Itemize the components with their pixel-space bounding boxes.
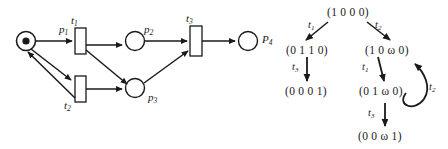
place-p1 bbox=[17, 32, 36, 51]
place-label-p4: P4 bbox=[262, 34, 272, 47]
tree-node-right2: (0 1 ω 0) bbox=[359, 86, 403, 98]
tree-arc-right1-right2 bbox=[378, 57, 384, 81]
tree-arc-label-t3-right2-right3: t3 bbox=[368, 108, 374, 120]
transition-t1 bbox=[75, 28, 86, 54]
tree-node-right3: (0 0 ω 1) bbox=[358, 131, 402, 143]
tree-arc-label-t1-right1-right2: t1 bbox=[362, 62, 368, 74]
transition-label-t3: t3 bbox=[186, 13, 193, 26]
tree-node-left2: (0 0 0 1) bbox=[285, 86, 327, 98]
transition-t2 bbox=[75, 76, 86, 102]
tree-arc-label-t1-root-left1: t1 bbox=[308, 20, 314, 32]
place-label-p1: p1 bbox=[59, 24, 68, 37]
arc-p3-t3 bbox=[144, 51, 188, 83]
tree-node-root: (1 0 0 0) bbox=[327, 7, 369, 19]
tree-arc-label-t2-root-right1: t2 bbox=[375, 20, 381, 32]
tree-arc-label-t3-left1-left2: t3 bbox=[292, 62, 298, 74]
place-p3 bbox=[126, 79, 145, 98]
tree-arc-label-t2-loop: t2 bbox=[429, 82, 435, 94]
tree-node-right1: (1 0 ω 0) bbox=[365, 45, 409, 57]
figure-canvas: p1 p2 p3 P4 t1 t2 t3 (1 0 0 0) (0 1 1 0)… bbox=[0, 0, 448, 149]
transition-t3 bbox=[190, 26, 202, 56]
token-p1 bbox=[22, 37, 29, 44]
arc-t2-p1 bbox=[28, 52, 75, 98]
tree-node-left1: (0 1 1 0) bbox=[286, 45, 328, 57]
arc-t1-p3 bbox=[86, 50, 127, 84]
place-p4 bbox=[239, 32, 258, 51]
place-p2 bbox=[126, 32, 145, 51]
place-label-p3: p3 bbox=[148, 92, 157, 105]
place-label-p2: p2 bbox=[144, 24, 153, 37]
tree-arc-right2-right1-loop bbox=[403, 64, 427, 106]
transition-label-t1: t1 bbox=[71, 15, 78, 28]
transition-label-t2: t2 bbox=[64, 100, 71, 113]
